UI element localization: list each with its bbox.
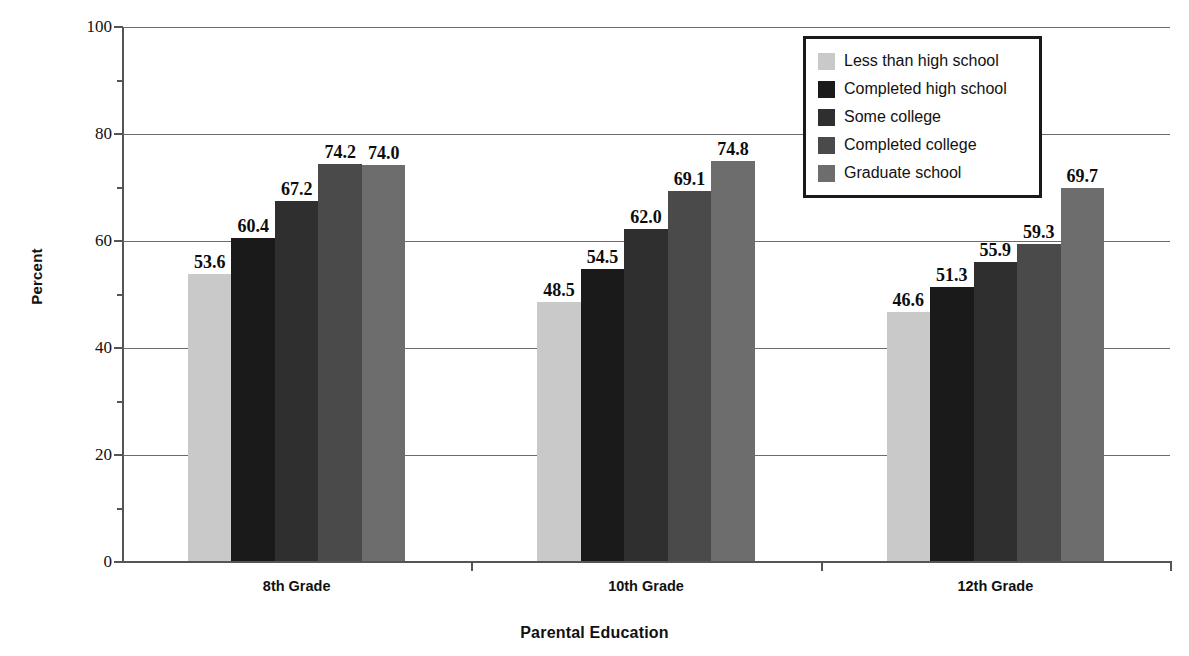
x-axis-group-label: 12th Grade — [957, 578, 1033, 594]
bar-value-label: 51.3 — [936, 266, 968, 284]
bar-value-label: 55.9 — [980, 241, 1012, 259]
y-tick-label: 80 — [52, 125, 112, 142]
bar: 74.0 — [362, 165, 406, 561]
y-tick-label: 60 — [52, 232, 112, 249]
x-axis-line — [122, 561, 1170, 563]
legend-item-label: Completed high school — [844, 81, 1007, 97]
bar-value-label: 74.2 — [324, 143, 356, 161]
x-tick — [1170, 561, 1172, 571]
x-axis-group-label: 10th Grade — [608, 578, 684, 594]
bar-value-label: 54.5 — [587, 248, 619, 266]
legend-swatch-icon — [818, 53, 835, 70]
legend-swatch-icon — [818, 81, 835, 98]
bar-value-label: 67.2 — [281, 180, 313, 198]
bar: 74.8 — [711, 161, 755, 561]
bar-value-label: 69.1 — [674, 170, 706, 188]
bar: 62.0 — [624, 229, 668, 561]
y-tick-minor — [117, 187, 123, 189]
bar: 69.7 — [1061, 188, 1105, 561]
y-tick-label: 100 — [52, 18, 112, 35]
bar: 53.6 — [188, 274, 232, 561]
chart-legend: Less than high schoolCompleted high scho… — [803, 36, 1042, 198]
y-tick-major — [114, 561, 123, 563]
bar-value-label: 62.0 — [630, 208, 662, 226]
y-tick-label: 0 — [52, 553, 112, 570]
bar-value-label: 46.6 — [893, 291, 925, 309]
y-tick-major — [114, 26, 123, 28]
y-tick-label: 20 — [52, 446, 112, 463]
x-axis-group-label: 8th Grade — [263, 578, 331, 594]
bar: 54.5 — [581, 269, 625, 561]
bar: 74.2 — [318, 164, 362, 561]
bar: 60.4 — [231, 238, 275, 561]
y-tick-minor — [117, 294, 123, 296]
legend-item: Completed high school — [818, 75, 1029, 103]
x-tick — [471, 561, 473, 571]
legend-swatch-icon — [818, 165, 835, 182]
x-axis-title: Parental Education — [0, 624, 1189, 642]
bar-chart: Percent 020406080100 53.660.467.274.274.… — [0, 0, 1189, 656]
bar-value-label: 48.5 — [543, 281, 575, 299]
y-tick-major — [114, 240, 123, 242]
legend-item-label: Graduate school — [844, 165, 961, 181]
legend-item-label: Some college — [844, 109, 941, 125]
y-axis-title: Percent — [28, 217, 45, 337]
bar: 46.6 — [887, 312, 931, 561]
y-tick-minor — [117, 80, 123, 82]
bar-value-label: 59.3 — [1023, 223, 1055, 241]
legend-item: Completed college — [818, 131, 1029, 159]
legend-item: Some college — [818, 103, 1029, 131]
x-tick — [821, 561, 823, 571]
y-tick-major — [114, 454, 123, 456]
bar-value-label: 74.0 — [368, 144, 400, 162]
y-tick-minor — [117, 401, 123, 403]
gridline — [122, 27, 1170, 28]
legend-item: Less than high school — [818, 47, 1029, 75]
bar: 55.9 — [974, 262, 1018, 561]
bar: 51.3 — [930, 287, 974, 561]
legend-swatch-icon — [818, 137, 835, 154]
y-tick-major — [114, 347, 123, 349]
bar-value-label: 53.6 — [194, 253, 226, 271]
bar: 48.5 — [537, 302, 581, 561]
bar-value-label: 60.4 — [237, 217, 269, 235]
legend-item-label: Completed college — [844, 137, 977, 153]
legend-item: Graduate school — [818, 159, 1029, 187]
y-tick-major — [114, 133, 123, 135]
bar: 59.3 — [1017, 244, 1061, 561]
y-tick-label: 40 — [52, 339, 112, 356]
bar: 67.2 — [275, 201, 319, 561]
bar-value-label: 69.7 — [1067, 167, 1099, 185]
bar: 69.1 — [668, 191, 712, 561]
bar-value-label: 74.8 — [717, 140, 749, 158]
legend-item-label: Less than high school — [844, 53, 999, 69]
legend-swatch-icon — [818, 109, 835, 126]
y-tick-minor — [117, 508, 123, 510]
